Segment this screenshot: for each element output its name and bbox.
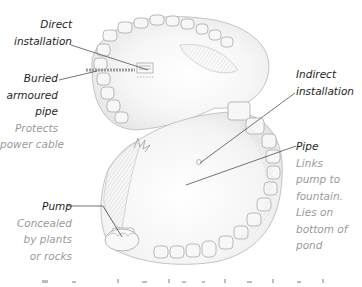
callout-title-line: armoured [0, 87, 58, 104]
callout-title-line: installation [296, 83, 362, 100]
cut-off-caption-glyphs [42, 276, 342, 284]
callout-title-line: installation [8, 33, 72, 50]
callout-title-line: Buried [0, 70, 58, 87]
callout-direct-installation: Direct installation [8, 16, 72, 49]
callout-title-line: Pump [4, 198, 72, 215]
callout-title-line: Indirect [296, 66, 362, 83]
callout-pump: Pump Concealed by plants or rocks [4, 198, 72, 264]
callout-description-line: by plants [4, 231, 72, 248]
cut-off-caption [42, 275, 342, 287]
callout-description-line: Protects [0, 120, 58, 137]
callout-description-line: bottom of [296, 221, 362, 238]
callout-description-line: Lies on [296, 204, 362, 221]
callout-pipe: Pipe Links pump to fountain. Lies on bot… [296, 138, 362, 254]
callout-description-line: or rocks [4, 248, 72, 265]
callout-title-line: pipe [0, 103, 58, 120]
leader-buried-armoured-pipe [59, 71, 97, 80]
callout-description-line: Links [296, 155, 362, 172]
callout-buried-armoured-pipe: Buried armoured pipe Protects power cabl… [0, 70, 58, 153]
callout-description-line: power cable [0, 136, 58, 153]
callout-description-line: pond [296, 237, 362, 254]
callout-description-line: fountain. [296, 188, 362, 205]
callout-description-line: Concealed [4, 215, 72, 232]
callout-description-line: pump to [296, 171, 362, 188]
callout-title-line: Direct [8, 16, 72, 33]
callout-title-line: Pipe [296, 138, 362, 155]
callout-indirect-installation: Indirect installation [296, 66, 362, 99]
pump-sketch [105, 229, 139, 251]
